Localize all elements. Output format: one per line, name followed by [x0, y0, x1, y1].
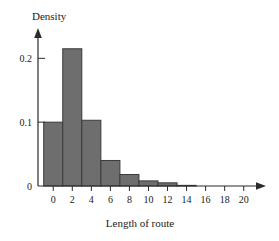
histogram-figure: 00.10.2 02468101214161820 Density Length… [0, 0, 279, 241]
x-axis-tick-label: 6 [108, 194, 113, 205]
histogram-bar [139, 181, 158, 186]
x-axis-tick-label: 2 [70, 194, 75, 205]
x-axis-tick-label: 20 [239, 194, 249, 205]
histogram-bar [82, 120, 101, 186]
x-axis-tick-label: 4 [89, 194, 94, 205]
x-axis-tick-label: 18 [220, 194, 230, 205]
y-axis-tick-label: 0.1 [20, 117, 33, 128]
histogram-bar [101, 160, 120, 186]
x-axis-tick-label: 16 [201, 194, 211, 205]
x-axis-tick-label: 10 [143, 194, 153, 205]
x-axis-tick-label: 8 [127, 194, 132, 205]
x-axis-tick-label: 0 [51, 194, 56, 205]
x-axis-tick-label: 14 [182, 194, 192, 205]
y-axis-title: Density [32, 10, 67, 22]
density-histogram-chart: 00.10.2 02468101214161820 Density Length… [0, 0, 279, 241]
y-axis-tick-label: 0.2 [20, 53, 33, 64]
x-axis-title: Length of route [106, 217, 175, 229]
histogram-bar [63, 49, 82, 186]
histogram-bar [44, 122, 63, 186]
histogram-bar [120, 175, 139, 186]
chart-background [0, 0, 279, 241]
x-axis-tick-label: 12 [163, 194, 173, 205]
y-axis-tick-label: 0 [27, 181, 32, 192]
